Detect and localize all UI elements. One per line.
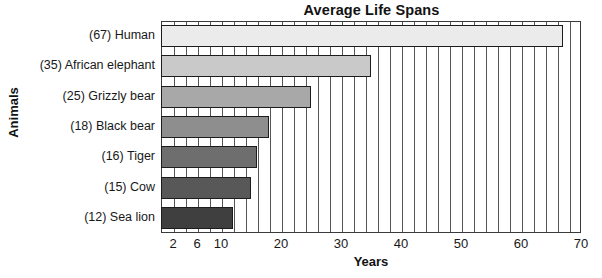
- y-axis-label: (16) Tiger: [0, 149, 155, 163]
- chart-title: Average Life Spans: [161, 2, 582, 18]
- x-tick-label: 6: [193, 236, 200, 251]
- bar: [161, 55, 371, 77]
- bar-series: [161, 21, 581, 233]
- y-axis-label: (12) Sea lion: [0, 210, 155, 224]
- x-tick-label: 10: [214, 236, 228, 251]
- y-axis-label: (35) African elephant: [0, 58, 155, 72]
- bar: [161, 177, 251, 199]
- bar: [161, 116, 269, 138]
- y-axis-label: (15) Cow: [0, 180, 155, 194]
- x-tick-label: 30: [334, 236, 348, 251]
- y-axis-label: (67) Human: [0, 28, 155, 42]
- y-axis-label: (25) Grizzly bear: [0, 89, 155, 103]
- x-tick-label: 50: [454, 236, 468, 251]
- x-tick-label: 60: [514, 236, 528, 251]
- bar: [161, 146, 257, 168]
- x-axis-title: Years: [161, 254, 581, 269]
- chart-container: Average Life Spans Animals (67) Human(35…: [0, 0, 602, 278]
- x-tick-label: 20: [274, 236, 288, 251]
- x-tick-label: 40: [394, 236, 408, 251]
- bar: [161, 25, 563, 47]
- x-axis-tick-labels: 2610203040506070: [0, 236, 602, 254]
- x-tick-label: 70: [574, 236, 588, 251]
- y-axis-category-labels: (67) Human(35) African elephant(25) Griz…: [0, 21, 155, 233]
- y-axis-label: (18) Black bear: [0, 119, 155, 133]
- x-tick-label: 2: [169, 236, 176, 251]
- bar: [161, 207, 233, 229]
- bar: [161, 86, 311, 108]
